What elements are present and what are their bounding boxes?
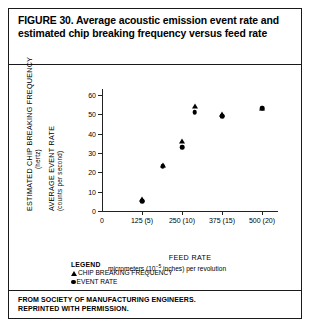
triangle-marker-icon: [71, 271, 77, 276]
y-tick-label: 60: [88, 91, 96, 98]
x-tick: [262, 211, 263, 215]
y-tick-label: 40: [88, 130, 96, 137]
y-tick-label: 0: [92, 208, 96, 215]
x-tick: [222, 211, 223, 215]
y-tick: [98, 153, 102, 154]
source-line-2: REPRINTED WITH PERMISSION.: [18, 304, 290, 313]
y-tick: [98, 172, 102, 173]
figure-container: FIGURE 30. Average acoustic emission eve…: [8, 8, 302, 319]
legend-item-chip-breaking-frequency: CHIP BREAKING FREQUENCY: [71, 269, 173, 277]
y-tick-label: 20: [88, 169, 96, 176]
legend-heading: LEGEND: [71, 261, 173, 269]
data-point-triangle: [192, 104, 198, 109]
data-point-circle: [140, 199, 145, 204]
y-axis-unit-primary: (hertz): [34, 149, 41, 169]
plot-region: 0102030405060 0125 (5)250 (10)375 (15)50…: [102, 89, 278, 211]
y-tick: [98, 95, 102, 96]
x-tick-label: 125 (5): [131, 217, 153, 224]
data-point-circle: [193, 110, 198, 115]
y-tick-label: 50: [88, 111, 96, 118]
figure-title: FIGURE 30. Average acoustic emission eve…: [18, 15, 292, 41]
y-tick: [98, 134, 102, 135]
data-point-circle: [220, 114, 225, 119]
source-credit: FROM SOCIETY OF MANUFACTURING ENGINEERS.…: [18, 295, 290, 314]
y-tick: [98, 192, 102, 193]
x-tick-label: 0: [100, 217, 104, 224]
y-axis-unit-secondary: (counts per second): [56, 151, 63, 211]
x-tick-label: 250 (10): [169, 217, 195, 224]
data-point-circle: [180, 145, 185, 150]
x-tick-label: 500 (20): [249, 217, 275, 224]
footer-divider: [9, 290, 301, 291]
x-tick-label: 375 (15): [209, 217, 235, 224]
source-line-1: FROM SOCIETY OF MANUFACTURING ENGINEERS.: [18, 295, 290, 304]
y-tick: [98, 211, 102, 212]
y-axis-line: [102, 89, 103, 211]
y-axis-title-primary: ESTIMATED CHIP BREAKING FREQUENCY: [25, 57, 34, 211]
legend: LEGEND CHIP BREAKING FREQUENCY EVENT RAT…: [71, 261, 173, 286]
x-tick: [182, 211, 183, 215]
y-tick-label: 30: [88, 149, 96, 156]
y-axis-title-secondary: AVERAGE EVENT RATE: [47, 126, 56, 211]
y-tick-label: 10: [88, 188, 96, 195]
legend-label: EVENT RATE: [77, 278, 118, 286]
legend-item-event-rate: EVENT RATE: [71, 278, 173, 286]
x-tick: [142, 211, 143, 215]
chart-area: ESTIMATED CHIP BREAKING FREQUENCY (hertz…: [9, 65, 301, 289]
circle-marker-icon: [71, 280, 76, 285]
legend-label: CHIP BREAKING FREQUENCY: [78, 269, 173, 277]
data-point-circle: [161, 164, 166, 169]
data-point-circle: [260, 106, 265, 111]
data-point-triangle: [179, 139, 185, 144]
x-axis-line: [102, 211, 278, 212]
y-tick: [98, 114, 102, 115]
